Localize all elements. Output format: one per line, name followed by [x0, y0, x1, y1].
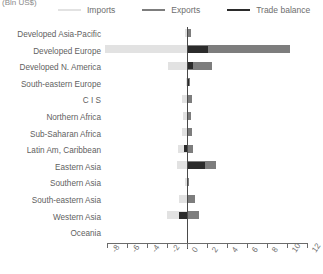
x-tick — [127, 243, 128, 248]
chart-row — [107, 127, 307, 144]
chart-row — [107, 210, 307, 227]
x-tick-label: 2 — [210, 245, 220, 254]
x-tick — [167, 243, 168, 248]
legend-item-imports: Imports — [58, 5, 115, 15]
category-axis: Developed Asia-PacificDeveloped EuropeDe… — [0, 27, 103, 243]
x-tick — [207, 243, 208, 248]
legend-item-exports: Exports — [142, 5, 200, 15]
bar-imports — [177, 161, 188, 169]
category-label: Western Asia — [0, 210, 103, 227]
x-tick — [107, 243, 108, 248]
chart-row — [107, 110, 307, 127]
chart-row — [107, 160, 307, 177]
plot-area — [107, 27, 307, 243]
legend-item-trade-balance: Trade balance — [227, 5, 310, 15]
chart-row — [107, 60, 307, 77]
category-label: Developed Europe — [0, 44, 103, 61]
legend-swatch-imports — [58, 9, 81, 11]
x-tick — [187, 243, 188, 248]
x-tick — [227, 243, 228, 248]
chart-row — [107, 27, 307, 44]
x-tick — [147, 243, 148, 248]
category-label: Eastern Asia — [0, 160, 103, 177]
category-label: Northern Africa — [0, 110, 103, 127]
category-label: C I S — [0, 93, 103, 110]
bar-imports — [105, 45, 187, 53]
x-tick-label: -4 — [150, 243, 161, 254]
category-label: South-eastern Europe — [0, 77, 103, 94]
legend-swatch-exports — [142, 9, 165, 11]
category-label: South-eastern Asia — [0, 193, 103, 210]
chart-row — [107, 193, 307, 210]
zero-axis-line — [187, 27, 188, 249]
chart-row — [107, 226, 307, 243]
category-label: Developed N. America — [0, 60, 103, 77]
x-tick — [287, 243, 288, 248]
chart-row — [107, 77, 307, 94]
bar-imports — [168, 62, 187, 70]
x-tick-label: -8 — [110, 243, 121, 254]
axis-unit-label: (Bln US$) — [2, 0, 37, 7]
x-tick-label: 8 — [270, 245, 280, 254]
chart-row — [107, 93, 307, 110]
chart-legend: Imports Exports Trade balance — [58, 5, 310, 15]
chart-row — [107, 143, 307, 160]
category-label: Southern Asia — [0, 176, 103, 193]
x-tick-label: 12 — [310, 242, 322, 254]
category-label: Oceania — [0, 226, 103, 243]
legend-label-imports: Imports — [87, 5, 115, 15]
x-tick-label: 6 — [250, 245, 260, 254]
bar-trade-balance — [187, 46, 208, 53]
legend-label-exports: Exports — [171, 5, 200, 15]
x-tick — [247, 243, 248, 248]
legend-label-trade-balance: Trade balance — [256, 5, 310, 15]
chart-row — [107, 44, 307, 61]
legend-swatch-trade-balance — [227, 9, 250, 11]
bar-exports — [187, 211, 199, 219]
bar-exports — [187, 195, 195, 203]
category-label: Latin Am, Caribbean — [0, 143, 103, 160]
x-tick-label: 0 — [190, 245, 200, 254]
category-label: Sub-Saharan Africa — [0, 127, 103, 144]
x-tick — [267, 243, 268, 248]
category-label: Developed Asia-Pacific — [0, 27, 103, 44]
bar-trade-balance — [179, 212, 188, 219]
chart-row — [107, 176, 307, 193]
bar-trade-balance — [187, 162, 205, 169]
x-tick-label: 4 — [230, 245, 240, 254]
x-tick-label: -6 — [130, 243, 141, 254]
x-tick — [307, 243, 308, 248]
x-tick-label: -2 — [170, 243, 181, 254]
trade-balance-chart: (Bln US$) Imports Exports Trade balance … — [0, 0, 323, 274]
